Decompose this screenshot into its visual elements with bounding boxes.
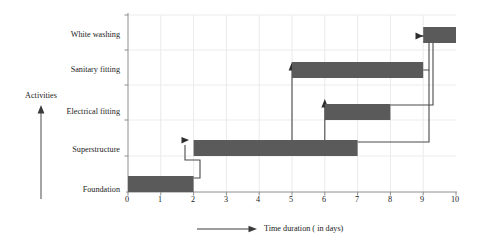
bar-electrical-fitting[interactable] [325,104,391,120]
bar-sanitary-fitting[interactable] [292,62,423,78]
dependency-connectors [185,36,433,178]
connector-arrowheads [182,32,424,143]
bar-foundation[interactable] [128,176,194,192]
x-axis-ticks [128,192,456,196]
bar-white-washing[interactable] [423,27,456,43]
bar-superstructure[interactable] [194,140,358,156]
gantt-chart: White washing Sanitary fitting Electrica… [0,0,477,248]
arrowhead-whitewashing-start [416,32,424,39]
arrowhead-superstructure-start [182,137,190,144]
y-axis-ticks [125,15,129,156]
plot-area [0,0,477,248]
